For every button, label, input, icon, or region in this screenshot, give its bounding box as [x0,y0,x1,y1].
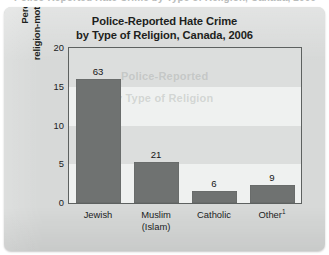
bar [76,79,121,203]
x-axis-category-label-line: Other1 [238,209,306,221]
y-axis-tick-labels: 20151050 [38,7,64,251]
bar-value-label: 6 [184,179,244,189]
y-axis-tick-label: 15 [40,82,64,92]
cut-off-caption-sliver: Police-Reported Hate Crime by Type of Re… [0,0,329,6]
bar-value-label: 63 [68,67,128,77]
y-axis-tick-label: 5 [40,159,64,169]
bar [192,191,237,203]
chart-figure-panel: Police-Reported Hate Crime by Type of Re… [4,7,325,251]
bar [134,162,179,203]
y-axis-tick-label: 20 [40,43,64,53]
x-axis-category-label: Other1 [238,209,306,221]
footnote-marker: 1 [282,208,286,215]
x-axis-category-label-line: (Islam) [122,221,190,233]
bar-value-label: 9 [242,173,302,183]
bar [250,185,295,203]
cut-off-caption-text: Police-Reported Hate Crime by Type of Re… [14,0,316,3]
y-axis-tick-label: 0 [40,198,64,208]
y-axis-title-line-1: Percentage of [19,7,31,73]
bar-value-label: 21 [126,150,186,160]
y-axis-tick-label: 10 [40,121,64,131]
